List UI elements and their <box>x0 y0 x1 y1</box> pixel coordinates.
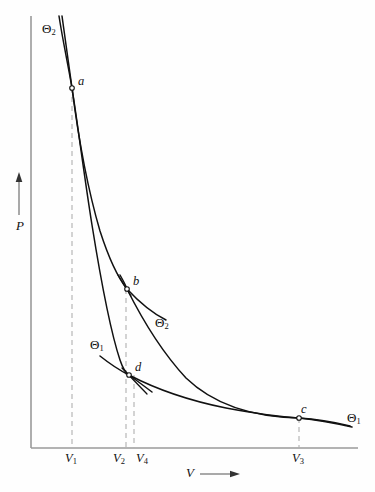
theta-subscript: 1 <box>99 343 103 353</box>
isotherm-label-theta1-mid: Θ1 <box>90 338 104 351</box>
tangent-at-b <box>118 275 131 296</box>
theta-glyph: Θ <box>347 410 356 425</box>
volume-tick-label-V1: V1 <box>65 452 77 465</box>
point-label-d: d <box>135 361 141 374</box>
p-axis-arrow-head <box>16 172 23 182</box>
theta-subscript: 2 <box>164 321 168 331</box>
curve-adiabat-ad <box>59 16 152 392</box>
point-marker-d <box>127 373 132 378</box>
point-label-c: c <box>301 403 307 416</box>
point-label-a: a <box>78 75 84 88</box>
theta-glyph: Θ <box>90 337 99 352</box>
y-axis-label: P <box>16 219 24 232</box>
curves-group <box>59 16 352 427</box>
volume-tick-label-V3: V3 <box>292 452 304 465</box>
isotherm-label-theta1-right: Θ1 <box>347 411 361 424</box>
point-label-b: b <box>133 275 139 288</box>
volume-subscript: 3 <box>300 456 304 466</box>
theta-subscript: 2 <box>51 27 55 37</box>
pv-diagram-figure: P V a b c d Θ2 Θ2 Θ1 Θ1 V1 V2 V4 V3 <box>0 0 375 492</box>
volume-subscript: 2 <box>121 456 125 466</box>
volume-tick-label-V4: V4 <box>136 452 148 465</box>
v-axis-arrow-head <box>230 471 240 478</box>
state-point-markers-group <box>70 86 302 421</box>
point-marker-c <box>297 416 302 421</box>
volume-glyph: V <box>65 451 73 465</box>
point-marker-a <box>70 86 75 91</box>
volume-glyph: V <box>136 451 144 465</box>
point-marker-b <box>125 287 130 292</box>
volume-subscript: 4 <box>144 456 148 466</box>
theta-glyph: Θ <box>155 315 164 330</box>
volume-subscript: 1 <box>73 456 77 466</box>
volume-glyph: V <box>113 451 121 465</box>
axis-arrows-group <box>16 172 240 477</box>
volume-glyph: V <box>292 451 300 465</box>
theta-subscript: 1 <box>356 416 360 426</box>
theta-glyph: Θ <box>42 21 51 36</box>
x-axis-label: V <box>186 466 194 479</box>
isotherm-label-theta2-top: Θ2 <box>42 22 56 35</box>
curve-adiabat-bc <box>120 275 350 426</box>
volume-dashed-lines-group <box>72 88 299 448</box>
isotherm-label-theta2-mid: Θ2 <box>155 316 169 329</box>
curve-isotherm-theta2 <box>62 16 166 320</box>
volume-tick-label-V2: V2 <box>113 452 125 465</box>
diagram-canvas <box>0 0 375 492</box>
